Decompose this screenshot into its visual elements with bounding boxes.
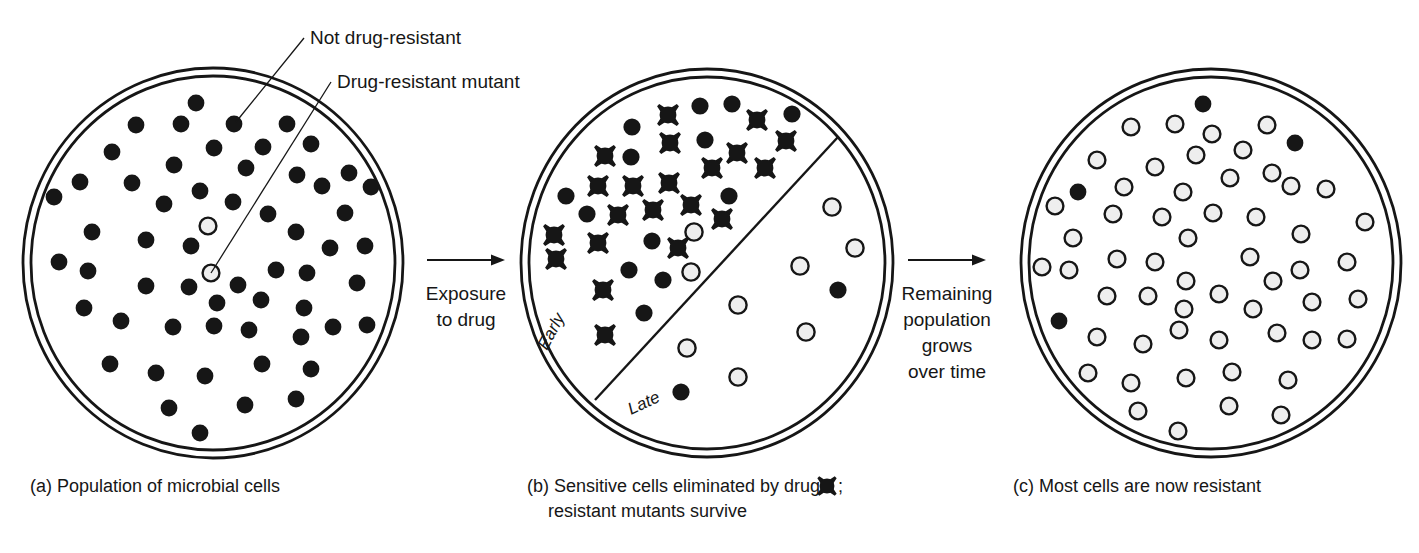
- resistant-cell: [1109, 251, 1126, 268]
- resistant-cell: [1099, 288, 1116, 305]
- resistant-cell-body: [823, 198, 840, 215]
- sensitive-cell-body: [76, 300, 93, 317]
- resistant-cell: [1178, 370, 1195, 387]
- resistant-cell-body: [1245, 301, 1262, 318]
- sensitive-cell-body: [1070, 184, 1087, 201]
- resistant-cell-body: [1222, 170, 1239, 187]
- sensitive-cell-body: [783, 105, 800, 122]
- resistant-cell: [1265, 273, 1282, 290]
- resistant-cell: [729, 296, 746, 313]
- resistant-cell-body: [1273, 407, 1290, 424]
- sensitive-cell-body: [268, 262, 285, 279]
- sensitive-cell: [183, 238, 200, 255]
- transition-label-line: over time: [908, 361, 986, 382]
- sensitive-cell: [349, 275, 366, 292]
- sensitive-cell-body: [124, 175, 141, 192]
- killed-cell-icon: [594, 145, 616, 167]
- resistant-cell: [1211, 332, 1228, 349]
- transition-label-line: Remaining: [902, 283, 993, 304]
- sensitive-cell-body: [102, 356, 119, 373]
- resistant-cell: [1283, 178, 1300, 195]
- caption-dish-b: (b) Sensitive cells eliminated by drug ;…: [527, 476, 843, 521]
- resistant-cell: [1269, 325, 1286, 342]
- resistant-cell: [1123, 119, 1140, 136]
- transition-arrow-head: [491, 255, 505, 266]
- killed-cell-icon: [701, 157, 723, 179]
- sensitive-cell-body: [279, 116, 296, 133]
- transition-arrow-head: [972, 255, 986, 266]
- resistant-cell-body: [1130, 403, 1147, 420]
- killed-cell-body: [645, 202, 662, 219]
- sensitive-cell: [206, 318, 223, 335]
- killed-cell-body: [729, 145, 746, 162]
- resistant-cell: [1339, 254, 1356, 271]
- sensitive-cell: [299, 265, 316, 282]
- sensitive-cell: [192, 183, 209, 200]
- resistant-cell: [1264, 165, 1281, 182]
- sensitive-cell-body: [80, 263, 97, 280]
- sensitive-cell: [138, 232, 155, 249]
- sensitive-cell: [720, 187, 737, 204]
- sensitive-cell-body: [225, 194, 242, 211]
- sensitive-cell-body: [192, 183, 209, 200]
- sensitive-cell-body: [299, 265, 316, 282]
- sensitive-cell-body: [166, 157, 183, 174]
- resistant-cell: [1318, 181, 1335, 198]
- killed-cell-icon: [587, 232, 609, 254]
- sensitive-cell-body: [206, 318, 223, 335]
- sensitive-cell: [76, 300, 93, 317]
- sensitive-cell: [192, 425, 209, 442]
- resistant-cell-body: [1180, 230, 1197, 247]
- caption-dish-b-line2: resistant mutants survive: [548, 501, 747, 521]
- sensitive-cell: [325, 319, 342, 336]
- resistant-cell: [1273, 407, 1290, 424]
- resistant-cell: [1178, 273, 1195, 290]
- killed-cell-body: [820, 479, 835, 494]
- sensitive-cell-body: [341, 165, 358, 182]
- resistant-cell-body: [1116, 179, 1133, 196]
- resistant-cell-body: [1105, 206, 1122, 223]
- transition-label-line: to drug: [436, 309, 495, 330]
- sensitive-cell-body: [209, 295, 226, 312]
- sensitive-cell-body: [192, 425, 209, 442]
- sensitive-cell-body: [183, 238, 200, 255]
- sensitive-cell: [197, 368, 214, 385]
- transition-exposure-to-drug: Exposureto drug: [426, 255, 506, 331]
- resistant-cell: [1350, 291, 1367, 308]
- sensitive-cell-body: [46, 189, 63, 206]
- killed-cell-body: [757, 160, 774, 177]
- sensitive-cell-body: [643, 232, 660, 249]
- resistant-cell-body: [797, 323, 814, 340]
- resistant-cell: [1147, 254, 1164, 271]
- transition-remaining-population-grows: Remainingpopulationgrowsover time: [902, 255, 993, 383]
- sensitive-cell: [643, 232, 660, 249]
- resistant-cell-body: [1339, 331, 1356, 348]
- sensitive-cell: [46, 189, 63, 206]
- sensitive-cell: [72, 174, 89, 191]
- resistant-cell: [1357, 214, 1374, 231]
- resistant-cell-body: [1135, 336, 1152, 353]
- resistant-cell-body: [1109, 251, 1126, 268]
- resistant-cell-body: [1248, 209, 1265, 226]
- resistant-cell-body: [1089, 329, 1106, 346]
- resistant-cell: [1123, 375, 1140, 392]
- sensitive-cell: [620, 261, 637, 278]
- sensitive-cell-body: [230, 277, 247, 294]
- killed-cell-body: [597, 327, 614, 344]
- sensitive-cell: [84, 224, 101, 241]
- resistant-cell-body: [1089, 152, 1106, 169]
- resistant-cell-body: [1211, 286, 1228, 303]
- sensitive-cell-body: [260, 206, 277, 223]
- sensitive-cell: [238, 160, 255, 177]
- sensitive-cell: [303, 136, 320, 153]
- sensitive-cell-body: [241, 322, 258, 339]
- resistant-cell: [1170, 423, 1187, 440]
- killed-cell-icon: [817, 476, 836, 495]
- killed-cell-icon: [545, 248, 567, 270]
- sensitive-cell: [279, 116, 296, 133]
- resistant-cell-body: [1242, 249, 1259, 266]
- sensitive-cell: [209, 295, 226, 312]
- resistant-cell-body: [1293, 226, 1310, 243]
- resistant-cell-body: [1339, 254, 1356, 271]
- resistant-cell-body: [1140, 288, 1157, 305]
